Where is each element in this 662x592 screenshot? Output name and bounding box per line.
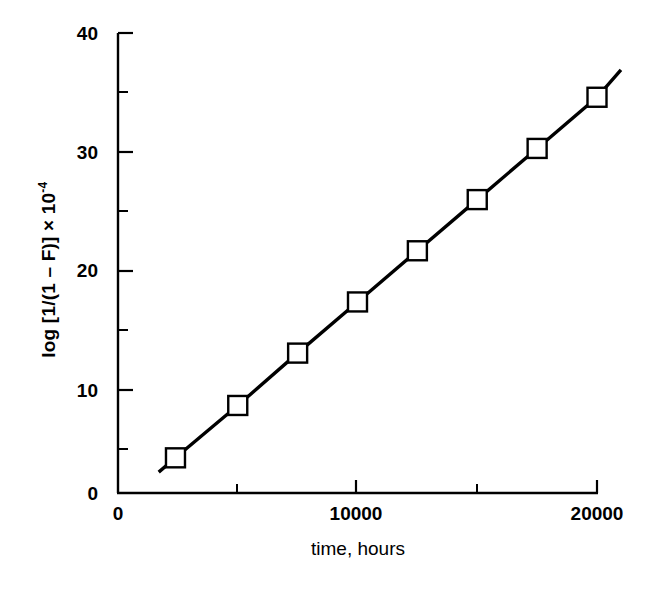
data-point-marker (588, 88, 607, 107)
plot-area (0, 0, 662, 592)
chart-figure: log [1/(1 – F)] × 10-4 time, hours 40 30… (0, 0, 662, 592)
axis-spines (117, 33, 598, 493)
data-point-marker (288, 344, 307, 363)
data-point-marker (348, 292, 367, 311)
data-point-marker (408, 241, 427, 260)
data-point-marker (228, 396, 247, 415)
data-point-marker (468, 190, 487, 209)
data-point-marker (528, 139, 547, 158)
data-point-marker (166, 448, 185, 467)
